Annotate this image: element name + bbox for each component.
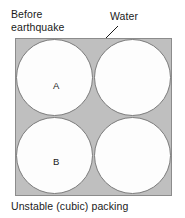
grain-top-right	[94, 39, 171, 116]
grain-bottom-right	[94, 117, 171, 194]
grain-top-left	[16, 39, 93, 116]
packing-box: A B	[15, 38, 172, 196]
figure-caption: Unstable (cubic) packing	[11, 200, 128, 213]
grain-label-a: A	[53, 81, 60, 91]
grain-label-b: B	[53, 157, 60, 167]
before-earthquake-label: Before earthquake	[11, 8, 65, 33]
packing-diagram: Before earthquake Water A B Unstable (cu…	[0, 0, 185, 218]
